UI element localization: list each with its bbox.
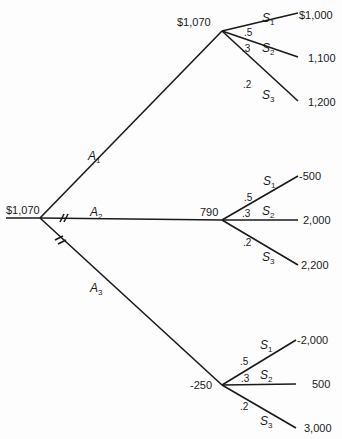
prob-a2-s1: .5 — [244, 193, 252, 203]
payoff-a3-s2: 500 — [312, 379, 330, 390]
state-a2-s2: S2 — [262, 205, 274, 220]
state-a3-s1: S1 — [260, 339, 272, 354]
decision-tree-lines — [0, 0, 342, 439]
payoff-a2-s2: 2,000 — [303, 215, 331, 226]
prob-a1-s1: .5 — [244, 28, 252, 38]
state-a3-s2: S2 — [260, 369, 272, 384]
node-value-a1: $1,070 — [177, 17, 211, 28]
payoff-a3-s1: -2,000 — [297, 335, 328, 346]
action-label-a3: A3 — [90, 282, 102, 297]
root-value: $1,070 — [6, 205, 40, 216]
payoff-a3-s3: 3,000 — [304, 423, 332, 434]
prob-a3-s2: .3 — [241, 374, 249, 384]
action-label-a2: A2 — [90, 206, 102, 221]
action-label-a1: A1 — [88, 150, 100, 165]
state-a2-s3: S3 — [262, 251, 274, 266]
payoff-a2-s3: 2,200 — [301, 260, 329, 271]
state-a3-s3: S3 — [260, 415, 272, 430]
node-value-a2: 790 — [200, 207, 218, 218]
payoff-a2-s1: -500 — [299, 171, 321, 182]
payoff-a1-s2: 1,100 — [308, 53, 336, 64]
prob-a2-s3: .2 — [243, 238, 251, 248]
payoff-a1-s3: 1,200 — [308, 97, 336, 108]
prob-a1-s2: .3 — [242, 44, 250, 54]
prob-a3-s1: .5 — [240, 357, 248, 367]
state-a1-s1: S1 — [262, 12, 274, 27]
state-a1-s3: S3 — [262, 89, 274, 104]
prob-a1-s3: .2 — [243, 80, 251, 90]
prob-a2-s2: .3 — [242, 209, 250, 219]
prob-a3-s3: .2 — [240, 402, 248, 412]
payoff-a1-s1: $1,000 — [299, 10, 333, 21]
state-a1-s2: S2 — [262, 42, 274, 57]
state-a2-s1: S1 — [263, 175, 275, 190]
node-value-a3: -250 — [190, 380, 212, 391]
